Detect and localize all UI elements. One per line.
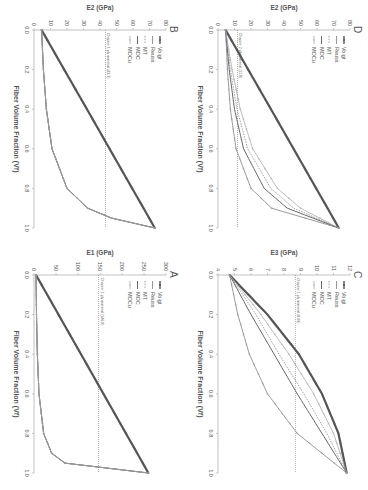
y-tick-label: 150 [97, 262, 103, 271]
legend: VoigtReussMTMOCMOCu [311, 36, 347, 63]
x-tick-label: 0.0 [208, 26, 214, 34]
y-tick-label: 20 [248, 20, 254, 26]
legend-item: MOCu [127, 292, 133, 308]
reference-line-label: Chapter 1 ply material (146.8) [100, 278, 104, 326]
legend: VoigtReussMTMOCMOCu [127, 281, 163, 308]
panel-d: D0.00.20.40.60.81.001020304050607080Fibe… [184, 0, 368, 245]
y-tick-label: 0 [215, 23, 221, 26]
y-tick-label: 10 [48, 20, 54, 26]
x-axis-label: Fiber Volume Fraction (Vf) [196, 86, 204, 173]
x-tick-label: 1.0 [24, 469, 30, 477]
legend-item: MOC [319, 292, 325, 305]
chart-d: D0.00.20.40.60.81.001020304050607080Fibe… [184, 0, 368, 245]
chart-c: C0.00.20.40.60.81.0456789101112Fiber Vol… [184, 245, 368, 490]
y-tick-label: 70 [331, 20, 337, 26]
y-axis-label: E2 (GPa) [86, 4, 113, 12]
y-tick-label: 30 [81, 20, 87, 26]
legend-item: MOCu [311, 292, 317, 308]
legend-item: MOC [135, 292, 141, 305]
y-tick-label: 80 [163, 20, 169, 26]
legend-item: Reuss [334, 47, 340, 63]
series-reuss [230, 275, 347, 473]
x-tick-label: 0.0 [24, 26, 30, 34]
panel-label: C [352, 271, 363, 278]
y-tick-label: 100 [75, 262, 81, 271]
panel-b: B0.00.20.40.60.81.001020304050607080Fibe… [0, 0, 184, 245]
y-tick-label: 70 [147, 20, 153, 26]
y-tick-label: 40 [97, 20, 103, 26]
series-voigt [230, 275, 347, 473]
y-tick-label: 11 [331, 265, 337, 271]
x-tick-label: 0.2 [24, 311, 30, 319]
y-tick-label: 80 [347, 20, 353, 26]
y-tick-label: 10 [314, 265, 320, 271]
y-tick-label: 0 [31, 23, 37, 26]
reference-line-label: Chapter 1 ply material (43.3) [106, 33, 110, 79]
x-tick-label: 0.4 [208, 350, 214, 358]
x-tick-label: 0.4 [208, 105, 214, 113]
y-tick-label: 8 [281, 268, 287, 271]
legend-item: Reuss [150, 47, 156, 63]
x-tick-label: 0.6 [24, 145, 30, 153]
chart-a: A0.00.20.40.60.81.0050100150200250300Fib… [0, 245, 184, 490]
y-tick-label: 12 [347, 265, 353, 271]
legend-item: Voigt [341, 47, 347, 60]
series-moc [230, 275, 347, 473]
legend-item: MOC [319, 47, 325, 60]
x-axis-label: Fiber Volume Fraction (Vf) [12, 86, 20, 173]
x-tick-label: 0.2 [208, 66, 214, 74]
x-axis-label: Fiber Volume Fraction (Vf) [12, 331, 20, 418]
panel-label: A [168, 271, 179, 278]
legend: VoigtReussMTMOCMOCu [311, 281, 347, 308]
y-tick-label: 50 [298, 20, 304, 26]
panel-a: A0.00.20.40.60.81.0050100150200250300Fib… [0, 245, 184, 490]
x-tick-label: 0.8 [24, 430, 30, 438]
legend-item: Voigt [341, 292, 347, 305]
x-tick-label: 0.8 [208, 430, 214, 438]
chart-b: B0.00.20.40.60.81.001020304050607080Fibe… [0, 0, 184, 245]
x-tick-label: 0.0 [24, 271, 30, 279]
x-axis-label: Fiber Volume Fraction (Vf) [196, 331, 204, 418]
legend-item: Voigt [157, 47, 163, 60]
legend: VoigtReussMTMOCMOCu [127, 36, 163, 63]
panel-c: C0.00.20.40.60.81.0456789101112Fiber Vol… [184, 245, 368, 490]
legend-item: MT [326, 292, 332, 301]
legend-item: MOC [135, 47, 141, 60]
y-tick-label: 5 [232, 268, 238, 271]
x-tick-label: 1.0 [208, 224, 214, 232]
x-tick-label: 0.8 [24, 185, 30, 193]
y-tick-label: 7 [265, 268, 271, 271]
legend-item: Reuss [334, 292, 340, 308]
y-tick-label: 9 [298, 268, 304, 271]
y-tick-label: 0 [31, 268, 37, 271]
y-tick-label: 10 [232, 20, 238, 26]
y-tick-label: 200 [119, 262, 125, 271]
x-tick-label: 1.0 [208, 469, 214, 477]
x-tick-label: 1.0 [24, 224, 30, 232]
y-tick-label: 60 [314, 20, 320, 26]
legend-item: MOCu [127, 47, 133, 63]
x-tick-label: 0.0 [208, 271, 214, 279]
panel-label: B [168, 26, 179, 33]
y-axis-label: E1 (GPa) [86, 249, 113, 257]
legend-item: MT [142, 47, 148, 56]
y-tick-label: 250 [141, 262, 147, 271]
y-tick-label: 6 [248, 268, 254, 271]
x-tick-label: 0.6 [208, 390, 214, 398]
x-tick-label: 0.2 [24, 66, 30, 74]
y-tick-label: 20 [64, 20, 70, 26]
legend-item: MT [326, 47, 332, 56]
y-tick-label: 40 [281, 20, 287, 26]
y-tick-label: 60 [130, 20, 136, 26]
series-mt [230, 275, 347, 473]
legend-item: MT [142, 292, 148, 301]
y-tick-label: 30 [265, 20, 271, 26]
x-tick-label: 0.4 [24, 105, 30, 113]
legend-item: MOCu [311, 47, 317, 63]
x-tick-label: 0.4 [24, 350, 30, 358]
x-tick-label: 0.6 [208, 145, 214, 153]
legend-item: Voigt [157, 292, 163, 305]
y-tick-label: 50 [114, 20, 120, 26]
reference-line-label: Chapter 1 ply material (8.69) [296, 278, 300, 324]
series-mocu [230, 275, 347, 473]
